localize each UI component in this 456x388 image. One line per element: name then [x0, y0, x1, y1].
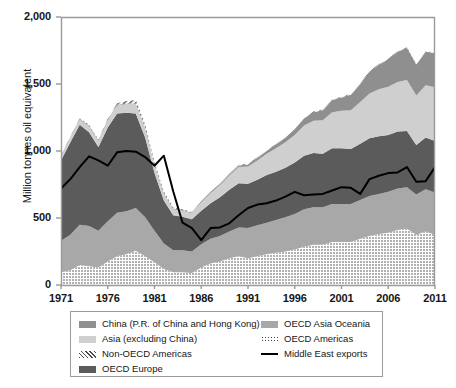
legend-item[interactable]: OECD Asia Oceania — [261, 317, 381, 331]
legend-item-label: OECD Asia Oceania — [284, 319, 370, 329]
legend-item-label: OECD Europe — [102, 364, 163, 374]
oecd-asia-oceania-swatch — [261, 321, 278, 328]
x-tick-label: 1976 — [85, 292, 131, 304]
x-tick-label: 1996 — [272, 292, 318, 304]
x-tick-label: 1986 — [178, 292, 224, 304]
oecd-europe-swatch — [79, 366, 96, 373]
legend-column-left: China (P.R. of China and Hong Kong)Asia … — [79, 317, 259, 377]
chart-plot-area: 05001,0001,5002,000 19711976198119861991… — [0, 0, 456, 305]
asia-swatch — [79, 336, 96, 343]
china-swatch — [79, 321, 96, 328]
legend-item[interactable]: Non-OECD Americas — [79, 347, 259, 361]
legend-item-label: Middle East exports — [284, 349, 367, 359]
figure: 05001,0001,5002,000 19711976198119861991… — [0, 0, 456, 388]
y-axis-tick-marks — [56, 17, 61, 285]
legend-item-label: Asia (excluding China) — [102, 334, 197, 344]
x-tick-label: 1981 — [132, 292, 178, 304]
legend-item[interactable]: China (P.R. of China and Hong Kong) — [79, 317, 259, 331]
x-tick-label: 1991 — [225, 292, 271, 304]
stacked-area-chart — [0, 0, 456, 305]
x-tick-label: 2006 — [365, 292, 411, 304]
legend-item-label: Non-OECD Americas — [102, 349, 192, 359]
legend-item-label: China (P.R. of China and Hong Kong) — [102, 319, 260, 329]
y-axis-title: Million tonnes oil equivalent — [21, 46, 33, 226]
non-oecd-americas-swatch — [79, 351, 96, 358]
x-tick-label: 2011 — [412, 292, 456, 304]
x-tick-label: 1971 — [38, 292, 84, 304]
y-tick-label: 0 — [7, 278, 51, 290]
legend-item[interactable]: Middle East exports — [261, 347, 381, 361]
y-tick-label: 2,000 — [7, 10, 51, 22]
legend-column-right: OECD Asia OceaniaOECD AmericasMiddle Eas… — [261, 317, 381, 362]
chart-legend: China (P.R. of China and Hong Kong)Asia … — [70, 311, 383, 377]
legend-item[interactable]: Asia (excluding China) — [79, 332, 259, 346]
middle-east-exports-swatch — [261, 353, 278, 355]
legend-item[interactable]: OECD Europe — [79, 362, 259, 376]
oecd-americas-swatch — [261, 336, 278, 343]
legend-item[interactable]: OECD Americas — [261, 332, 381, 346]
x-tick-label: 2001 — [319, 292, 365, 304]
legend-item-label: OECD Americas — [284, 334, 353, 344]
